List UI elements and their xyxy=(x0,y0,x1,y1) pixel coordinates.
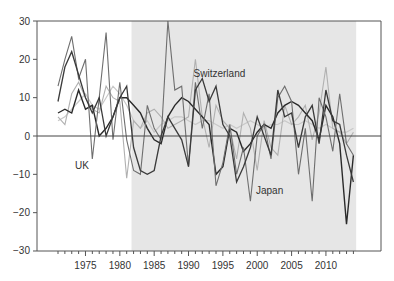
x-axis-ticks: 19751980198519901995200020052010 xyxy=(58,251,353,271)
y-tick-label: 30 xyxy=(19,16,31,27)
x-tick-label: 1990 xyxy=(177,260,200,271)
chart-canvas: 3020100−10−20−30 19751980198519901995200… xyxy=(0,0,394,281)
x-tick-label: 2005 xyxy=(280,260,303,271)
annotation-uk: UK xyxy=(75,160,89,171)
x-tick-label: 1995 xyxy=(212,260,235,271)
annotation-switzerland: Switzerland xyxy=(194,68,246,79)
y-tick-label: 0 xyxy=(24,131,30,142)
y-tick-label: 20 xyxy=(19,54,31,65)
y-tick-label: −20 xyxy=(13,207,30,218)
line-chart: 3020100−10−20−30 19751980198519901995200… xyxy=(0,0,394,281)
x-tick-label: 1975 xyxy=(74,260,97,271)
x-tick-label: 2000 xyxy=(246,260,269,271)
x-tick-label: 1980 xyxy=(109,260,132,271)
x-tick-label: 2010 xyxy=(315,260,338,271)
x-tick-label: 1985 xyxy=(143,260,166,271)
y-tick-label: 10 xyxy=(19,92,31,103)
annotation-japan: Japan xyxy=(256,185,283,196)
y-tick-label: −30 xyxy=(13,245,30,256)
y-axis-ticks: 3020100−10−20−30 xyxy=(13,16,37,257)
y-tick-label: −10 xyxy=(13,169,30,180)
